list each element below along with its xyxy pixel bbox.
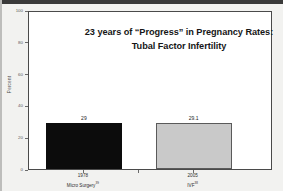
y-axis-tick: 40 — [0, 102, 28, 110]
y-axis-title: Percent — [7, 62, 12, 108]
y-axis-tick-label: 100 — [16, 7, 23, 15]
x-axis-tick-mark — [138, 170, 139, 173]
x-axis-tick-mark — [193, 170, 194, 173]
category-year: 2005 — [143, 173, 243, 180]
bar[interactable] — [46, 123, 122, 169]
bar-group: 29.1 — [156, 111, 232, 169]
y-axis-tick-label: 40 — [18, 102, 23, 110]
x-axis-category-label: 2005IVF38 — [143, 173, 243, 189]
y-axis-tick-label: 60 — [18, 71, 23, 79]
category-year: 1978 — [33, 173, 133, 180]
bar-group: 29 — [46, 111, 122, 169]
category-citation-superscript: 39 — [95, 181, 99, 185]
category-method: IVF38 — [143, 180, 243, 189]
chart-title: 23 years of “Progress” in Pregnancy Rate… — [63, 26, 283, 53]
bar-value-label: 29 — [46, 115, 122, 121]
bar-value-label: 29.1 — [156, 115, 232, 121]
y-axis-tick: 100 — [0, 7, 28, 15]
y-axis-tick-label: 20 — [18, 134, 23, 142]
chart-title-line-2: Tubal Factor Infertility — [63, 40, 283, 54]
y-axis-tick-label: 0 — [21, 166, 23, 174]
x-axis-category-label: 1978Micro Surgery39 — [33, 173, 133, 189]
y-axis-tick: 0 — [0, 166, 28, 174]
category-method: Micro Surgery39 — [33, 180, 133, 189]
x-axis-tick-mark — [83, 170, 84, 173]
y-axis-tick-label: 80 — [18, 39, 23, 47]
category-citation-superscript: 38 — [194, 181, 198, 185]
y-axis-tick: 60 — [0, 71, 28, 79]
plot-area: 23 years of “Progress” in Pregnancy Rate… — [28, 11, 272, 170]
y-axis-tick: 20 — [0, 134, 28, 142]
y-axis-tick: 80 — [0, 39, 28, 47]
bar-chart: Percent 020406080100 23 years of “Progre… — [0, 4, 283, 191]
bar[interactable] — [156, 123, 232, 169]
slide-canvas: Percent 020406080100 23 years of “Progre… — [0, 0, 283, 191]
chart-title-line-1: 23 years of “Progress” in Pregnancy Rate… — [85, 27, 273, 37]
